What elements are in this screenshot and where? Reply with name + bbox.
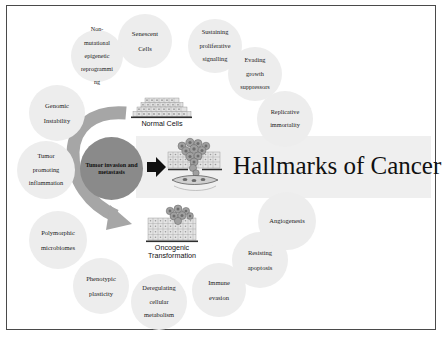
hallmark-phenotypic-plasticity[interactable]: Phenotypic plasticity bbox=[73, 258, 129, 314]
hallmark-deregulating-cellular-metabolism[interactable]: Deregulating cellular metabolism bbox=[131, 274, 187, 330]
oncogenic-transformation-caption: Oncogenic Transformation bbox=[137, 244, 207, 260]
hallmark-polymorphic-microbiomes[interactable]: Polymorphic microbiomes bbox=[29, 211, 87, 269]
hallmark-angiogenesis[interactable]: Angiogenesis bbox=[258, 192, 316, 250]
figure-canvas: Tumor invasion and metastasis bbox=[0, 0, 445, 341]
page-title: Hallmarks of Cancer bbox=[233, 152, 441, 180]
hallmark-tumor-promoting-inflammation[interactable]: Tumor promoting inflammation bbox=[17, 141, 75, 199]
hallmark-non-mutational-epigenetic[interactable]: Non- mutational epigenetic reprogrammi n… bbox=[71, 30, 123, 82]
hallmark-senescent-cells[interactable]: Senescent Cells bbox=[118, 14, 172, 68]
hallmark-genomic-instability[interactable]: Genomic Instability bbox=[29, 85, 85, 141]
hallmarks-of-cancer-figure: Tumor invasion and metastasis bbox=[0, 0, 445, 341]
hallmark-replicative-immortality[interactable]: Replicative immortality bbox=[257, 91, 313, 147]
